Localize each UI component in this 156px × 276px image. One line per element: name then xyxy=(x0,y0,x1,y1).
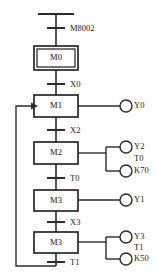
coil-y3[interactable] xyxy=(120,231,132,243)
coil-t1[interactable] xyxy=(120,253,132,265)
coil-label-y0: Y0 xyxy=(134,100,144,110)
output-branch-m2: Y2 T0 K70 xyxy=(78,141,149,177)
transition-x2: X2 xyxy=(47,125,80,135)
step-label: M3 xyxy=(50,195,62,205)
coil-preset-k70: K70 xyxy=(134,165,149,175)
coil-label-y3: Y3 xyxy=(134,231,144,241)
step-m0[interactable]: M0 xyxy=(34,46,78,70)
transition-label: X0 xyxy=(70,79,80,89)
sfc-canvas: M8002 M0 X0 M1 Y0 X2 xyxy=(0,0,156,276)
step-m3-b[interactable]: M3 xyxy=(34,232,78,253)
step-m3-a[interactable]: M3 xyxy=(34,190,78,211)
step-m2[interactable]: M2 xyxy=(34,142,78,164)
transition-label: T0 xyxy=(70,173,79,183)
coil-label-y1: Y1 xyxy=(134,194,144,204)
transition-t0: T0 xyxy=(47,173,79,183)
output-branch-m3-b: Y3 T1 K50 xyxy=(78,231,149,265)
coil-label-t0: T0 xyxy=(134,153,143,163)
transition-x0: X0 xyxy=(47,79,80,89)
transition-label: X3 xyxy=(70,217,80,227)
step-label: M1 xyxy=(50,100,62,110)
coil-preset-k50: K50 xyxy=(134,253,149,263)
step-label: M2 xyxy=(50,147,62,157)
coil-y0[interactable] xyxy=(120,100,132,112)
step-m1[interactable]: M1 xyxy=(34,95,78,117)
coil-label-t1: T1 xyxy=(134,242,143,252)
transition-label: X2 xyxy=(70,125,80,135)
coil-y2[interactable] xyxy=(120,141,132,153)
coil-label-y2: Y2 xyxy=(134,141,144,151)
coil-t0[interactable] xyxy=(120,165,132,177)
sfc-diagram: M8002 M0 X0 M1 Y0 X2 xyxy=(0,0,156,276)
output-branch-m1: Y0 xyxy=(78,100,144,112)
coil-y1[interactable] xyxy=(120,194,132,206)
output-branch-m3-a: Y1 xyxy=(78,194,144,206)
transition-label: M8002 xyxy=(70,23,95,33)
transition-label: T1 xyxy=(70,257,79,267)
transition-x3: X3 xyxy=(47,217,80,227)
step-label: M3 xyxy=(50,237,62,247)
transition-m8002: M8002 xyxy=(47,23,95,33)
step-label: M0 xyxy=(50,52,62,62)
